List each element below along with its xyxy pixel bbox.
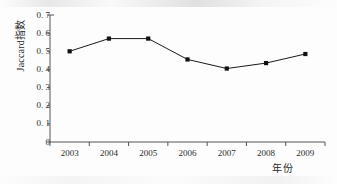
data-point-2003 (68, 49, 72, 53)
data-point-2009 (303, 52, 307, 56)
data-point-2004 (107, 36, 111, 40)
data-point-2007 (225, 66, 229, 70)
data-line-series-1 (70, 39, 306, 69)
data-point-2008 (264, 61, 268, 65)
data-point-2005 (146, 36, 150, 40)
data-point-2006 (185, 57, 189, 61)
chart-figure: Jaccard指数 年份 00. 10. 20. 30. 40. 50. 60.… (0, 0, 337, 184)
axis-ticks (47, 15, 325, 146)
plot-area (0, 0, 337, 184)
axes-group (50, 15, 325, 142)
data-markers-series-1 (68, 36, 308, 70)
